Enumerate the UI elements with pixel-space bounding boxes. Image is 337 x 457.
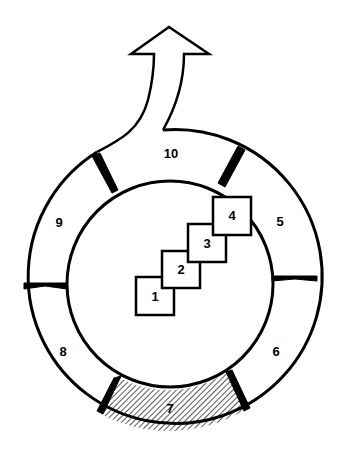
step-label-3: 3 xyxy=(203,236,210,251)
ring-label-8: 8 xyxy=(59,344,66,359)
ring-label-5: 5 xyxy=(276,214,283,229)
exit-arrow xyxy=(97,27,209,152)
ring-label-10: 10 xyxy=(164,146,178,161)
step-label-2: 2 xyxy=(177,262,184,277)
divider-9-10 xyxy=(92,153,118,193)
divider-5-6 xyxy=(272,276,317,281)
step-label-1: 1 xyxy=(151,289,158,304)
ring-label-9: 9 xyxy=(55,215,62,230)
ring-label-7: 7 xyxy=(166,401,173,416)
ring-label-6: 6 xyxy=(272,344,279,359)
divider-8-9 xyxy=(24,283,67,289)
cycle-diagram: 1 2 3 4 5 6 7 8 9 10 xyxy=(0,0,337,457)
step-label-4: 4 xyxy=(228,208,236,223)
divider-10-5 xyxy=(218,146,245,187)
